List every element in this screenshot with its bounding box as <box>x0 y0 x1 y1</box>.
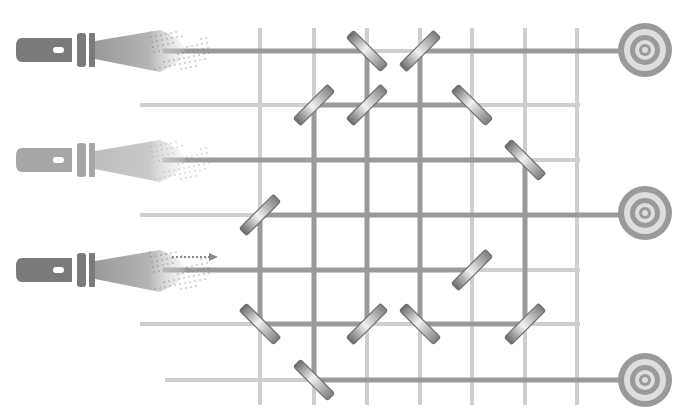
light-speckle <box>202 268 204 270</box>
light-cone <box>95 250 185 292</box>
light-speckle <box>206 262 208 264</box>
light-speckle <box>150 146 152 148</box>
light-speckle <box>164 66 166 68</box>
light-speckle <box>168 60 170 62</box>
light-speckle <box>198 274 200 276</box>
light-speckle <box>204 278 206 280</box>
flashlight-switch <box>53 267 64 273</box>
light-speckle <box>188 276 190 278</box>
light-speckle <box>150 36 152 38</box>
light-speckle <box>152 266 154 268</box>
light-speckle <box>189 61 191 63</box>
light-speckle <box>202 158 204 160</box>
target-3 <box>618 353 672 407</box>
light-speckle <box>158 160 160 162</box>
light-speckle <box>204 58 206 60</box>
light-speckle <box>159 287 161 289</box>
light-speckle <box>163 281 165 283</box>
light-speckle <box>168 170 170 172</box>
light-speckle <box>195 285 197 287</box>
flashlight-2[interactable] <box>16 140 210 182</box>
light-speckle <box>154 68 156 70</box>
light-speckle <box>192 270 194 272</box>
light-speckle <box>200 258 202 260</box>
light-speckle <box>174 174 176 176</box>
light-speckle <box>207 157 209 159</box>
light-speckle <box>175 141 177 143</box>
light-speckle <box>178 278 180 280</box>
light-speckle <box>203 163 205 165</box>
light-speckle <box>197 269 199 271</box>
targets <box>618 23 672 407</box>
light-speckle <box>200 148 202 150</box>
light-speckle <box>155 255 157 257</box>
light-speckle <box>155 35 157 37</box>
flashlight-ring <box>77 33 86 67</box>
light-speckle <box>205 37 207 39</box>
light-speckle <box>165 143 167 145</box>
light-speckle <box>175 31 177 33</box>
light-speckle <box>151 151 153 153</box>
light-speckle <box>187 51 189 53</box>
light-speckle <box>180 68 182 70</box>
light-speckle <box>201 263 203 265</box>
target-2 <box>618 186 672 240</box>
light-speckle <box>179 173 181 175</box>
light-speckle <box>153 271 155 273</box>
light-speckle <box>201 43 203 45</box>
light-speckle <box>161 149 163 151</box>
light-speckle <box>183 57 185 59</box>
light-speckle <box>160 254 162 256</box>
light-speckle <box>203 273 205 275</box>
light-speckle <box>164 286 166 288</box>
light-speckle <box>175 251 177 253</box>
light-speckle <box>174 64 176 66</box>
light-speckle <box>178 168 180 170</box>
light-speckle <box>154 178 156 180</box>
flashlight-ring <box>77 143 86 177</box>
light-speckle <box>206 152 208 154</box>
light-speckle <box>194 170 196 172</box>
light-speckle <box>166 148 168 150</box>
light-speckle <box>183 277 185 279</box>
light-speckle <box>177 273 179 275</box>
light-speckle <box>161 39 163 41</box>
light-speckle <box>195 175 197 177</box>
flashlight-switch <box>53 157 64 163</box>
target-ring <box>642 210 648 216</box>
flashlight-1[interactable] <box>16 30 210 72</box>
light-speckle <box>179 283 181 285</box>
light-speckle <box>185 177 187 179</box>
light-speckle <box>172 42 174 44</box>
direction-arrow-icon <box>172 253 218 261</box>
light-speckle <box>196 264 198 266</box>
light-speckle <box>207 47 209 49</box>
light-speckle <box>171 147 173 149</box>
light-speckle <box>166 38 168 40</box>
light-speckle <box>190 66 192 68</box>
light-speckle <box>182 162 184 164</box>
light-speckle <box>197 159 199 161</box>
light-speckle <box>191 265 193 267</box>
light-speckle <box>186 156 188 158</box>
light-speckle <box>193 55 195 57</box>
light-speckle <box>203 53 205 55</box>
light-speckle <box>158 50 160 52</box>
light-speckle <box>184 282 186 284</box>
light-speckle <box>163 61 165 63</box>
light-speckle <box>156 260 158 262</box>
light-speckle <box>152 156 154 158</box>
light-speckle <box>162 154 164 156</box>
light-speckle <box>172 152 174 154</box>
light-speckle <box>199 169 201 171</box>
light-speckle <box>157 45 159 47</box>
light-speckle <box>149 251 151 253</box>
light-speckle <box>153 161 155 163</box>
light-speckle <box>174 284 176 286</box>
light-speckle <box>192 160 194 162</box>
light-speckle <box>172 262 174 264</box>
light-speckle <box>154 288 156 290</box>
light-speckle <box>185 67 187 69</box>
light-speckle <box>190 286 192 288</box>
light-speckle <box>158 270 160 272</box>
